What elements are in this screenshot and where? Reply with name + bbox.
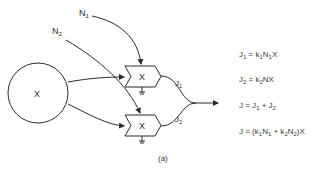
n2-label: N2 (52, 26, 63, 37)
figure-caption: (a) (158, 154, 168, 163)
n1-label: N1 (79, 8, 90, 19)
j1-label: J1 (175, 79, 182, 89)
equation-j-combined: J = (k1N1 + k2N2)X (239, 127, 305, 136)
multiplier-1-label: X (139, 72, 145, 82)
diagram-canvas: X N1 N2 X X J1 J2 (0, 0, 327, 179)
j2-label: J2 (175, 115, 182, 125)
source-node-circle: X (8, 63, 68, 123)
multiplier-2: X (125, 115, 161, 143)
input-n1: N1 (79, 8, 141, 64)
multiplier-1: X (125, 66, 161, 94)
equation-j-sum: J = J1 + J2 (239, 101, 276, 110)
ground-icon (139, 87, 145, 94)
source-node-label: X (34, 89, 40, 99)
n2-arrow (66, 40, 140, 113)
x-to-multiplier2-arrow (68, 104, 124, 126)
equation-j2: J2 = k2NX (239, 75, 274, 84)
equation-j1: J1 = k1N1X (239, 50, 277, 59)
multiplier-2-label: X (139, 121, 145, 131)
ground-icon (139, 136, 145, 143)
n1-arrow (92, 16, 141, 64)
